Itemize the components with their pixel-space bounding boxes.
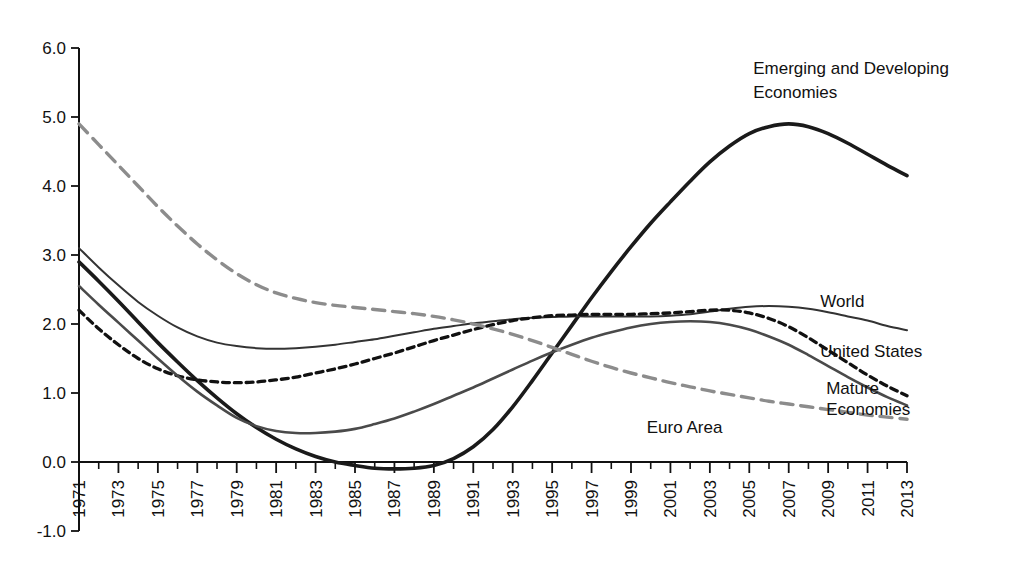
y-tick-label: 0.0 — [42, 453, 66, 472]
x-tick-label: 2011 — [859, 480, 878, 517]
series-line — [79, 124, 907, 469]
x-tick-label: 1993 — [504, 480, 523, 518]
x-tick-label: 1975 — [149, 480, 168, 518]
y-tick-label: 1.0 — [42, 384, 66, 403]
series-line — [79, 286, 907, 433]
x-tick-label: 1981 — [267, 480, 286, 518]
series-label: Economies — [826, 400, 910, 419]
x-tick-label: 1989 — [425, 480, 444, 518]
y-tick-label: 6.0 — [42, 39, 66, 58]
x-tick-label: 2001 — [661, 480, 680, 518]
y-tick-label: 3.0 — [42, 246, 66, 265]
x-tick-label: 1997 — [583, 480, 602, 518]
y-tick-label: -1.0 — [37, 522, 66, 541]
line-chart-plot: 6.05.04.03.02.01.00.0-1.0 19711973197519… — [0, 0, 1021, 567]
series-label: World — [820, 292, 864, 311]
y-axis: 6.05.04.03.02.01.00.0-1.0 — [37, 39, 79, 541]
chart-container: 6.05.04.03.02.01.00.0-1.0 19711973197519… — [0, 0, 1021, 567]
series-labels-group: Emerging and DevelopingEconomiesWorldUni… — [647, 59, 949, 437]
x-tick-label: 1983 — [307, 480, 326, 518]
series-line — [79, 310, 907, 396]
data-series-group — [79, 124, 907, 469]
x-tick-label: 2005 — [740, 480, 759, 518]
x-tick-label: 1971 — [70, 480, 89, 518]
y-tick-label: 4.0 — [42, 177, 66, 196]
x-tick-label: 2007 — [780, 480, 799, 518]
series-label: Emerging and Developing — [753, 59, 949, 78]
x-tick-label: 2009 — [819, 480, 838, 518]
x-tick-label: 1995 — [543, 480, 562, 518]
series-label: United States — [820, 342, 922, 361]
series-label: Mature — [826, 379, 879, 398]
x-tick-label: 1991 — [464, 480, 483, 518]
y-tick-label: 5.0 — [42, 108, 66, 127]
x-tick-label: 1999 — [622, 480, 641, 518]
x-tick-label: 1973 — [109, 480, 128, 518]
x-tick-label: 1987 — [385, 480, 404, 518]
series-line — [79, 248, 907, 349]
x-axis: 1971197319751977197919811983198519871989… — [70, 462, 917, 518]
x-tick-label: 1977 — [188, 480, 207, 518]
x-tick-label: 2013 — [898, 480, 917, 518]
x-tick-label: 1979 — [228, 480, 247, 518]
x-tick-label: 2003 — [701, 480, 720, 518]
series-line — [79, 124, 907, 419]
y-tick-label: 2.0 — [42, 315, 66, 334]
series-label: Euro Area — [647, 418, 723, 437]
x-tick-label: 1985 — [346, 480, 365, 518]
series-label: Economies — [753, 83, 837, 102]
